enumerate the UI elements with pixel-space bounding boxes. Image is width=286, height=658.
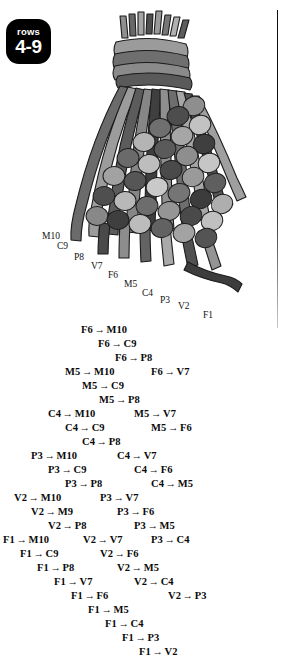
knot-source-cord: C4: [65, 422, 78, 433]
arrow-icon: →: [130, 562, 144, 573]
knot-target-cord: V7: [110, 534, 123, 545]
knot-target-cord: F6: [161, 464, 173, 475]
knot-target-cord: C9: [73, 464, 86, 475]
cord-tails-top: [120, 11, 189, 38]
knot-target-cord: M9: [58, 506, 73, 517]
knot-source-cord: P3: [48, 464, 60, 475]
knot-source-cord: F6: [115, 352, 127, 363]
knot-source-cord: V2: [83, 534, 96, 545]
arrow-icon: →: [134, 632, 148, 643]
arrow-icon: →: [93, 324, 107, 335]
knot-source-cord: F1: [20, 548, 32, 559]
knot-instruction: P3→F6: [117, 506, 154, 517]
knot-source-cord: V2: [168, 590, 181, 601]
arrow-icon: →: [151, 646, 165, 657]
knot-source-cord: F1: [88, 604, 100, 615]
knot-instruction: P3→V7: [100, 492, 139, 503]
knot-instruction: F1→V2: [139, 646, 178, 657]
arrow-icon: →: [32, 548, 46, 559]
knot-instruction: M5→P8: [99, 394, 140, 405]
arrow-icon: →: [44, 506, 58, 517]
knot-target-cord: V7: [125, 492, 138, 503]
knot-source-cord: F1: [54, 576, 66, 587]
knot-instruction: C4→F6: [134, 464, 173, 475]
arrow-icon: →: [149, 408, 163, 419]
knot-instruction: P3→P8: [65, 478, 102, 489]
arrow-icon: →: [61, 408, 75, 419]
knot-target-cord: F6: [142, 506, 154, 517]
knot-target-cord: C9: [45, 548, 58, 559]
knot-source-cord: V2: [14, 492, 27, 503]
knot-source-cord: C4: [151, 478, 164, 489]
knot-source-cord: P3: [151, 534, 163, 545]
arrow-icon: →: [60, 464, 74, 475]
arrow-icon: →: [127, 352, 141, 363]
knot-source-cord: F1: [71, 590, 83, 601]
knot-target-cord: M10: [28, 534, 49, 545]
arrow-icon: →: [83, 590, 97, 601]
knot-source-cord: F1: [105, 618, 117, 629]
knot-instruction: V2→M9: [31, 506, 73, 517]
knot-source-cord: F6: [151, 366, 163, 377]
knot-instruction: F1→M10: [3, 534, 49, 545]
knot-source-cord: F1: [3, 534, 15, 545]
knot-instruction: F1→C4: [105, 618, 144, 629]
knot-instruction: C4→V7: [117, 450, 157, 461]
knot-target-cord: V7: [176, 366, 189, 377]
knot-instruction: P3→M5: [134, 520, 175, 531]
knot-target-cord: V7: [79, 576, 92, 587]
knot-instruction: P3→C9: [48, 464, 87, 475]
knotting-pattern-page: rows 4-9: [0, 0, 286, 658]
arrow-icon: →: [100, 604, 114, 615]
arrow-icon: →: [96, 534, 110, 545]
arrow-icon: →: [166, 422, 180, 433]
knot-source-cord: V2: [48, 520, 61, 531]
knot-source-cord: P3: [117, 506, 129, 517]
arrow-icon: →: [147, 464, 161, 475]
arrow-icon: →: [117, 618, 131, 629]
knot-target-cord: P8: [75, 520, 87, 531]
cord-label-m10: M10: [42, 231, 60, 241]
knot-target-cord: P8: [140, 352, 152, 363]
knot-source-cord: P3: [31, 450, 43, 461]
knot-source-cord: P3: [65, 478, 77, 489]
cord-label-p8: P8: [74, 252, 84, 262]
cord-label-f1: F1: [203, 310, 213, 320]
knot-target-cord: F6: [96, 590, 108, 601]
knot-source-cord: C4: [117, 450, 130, 461]
knot-target-cord: C9: [92, 422, 105, 433]
knot-source-cord: C4: [82, 436, 95, 447]
knot-instruction: V2→P8: [48, 520, 87, 531]
knot-instruction: M5→V7: [134, 408, 176, 419]
arrow-icon: →: [49, 562, 63, 573]
arrow-icon: →: [61, 520, 75, 531]
knot-target-cord: C4: [130, 618, 143, 629]
knot-target-cord: P8: [109, 436, 121, 447]
knot-instruction: C4→C9: [65, 422, 105, 433]
knot-source-cord: F1: [122, 632, 134, 643]
arrow-icon: →: [78, 422, 92, 433]
knot-source-cord: M5: [65, 366, 80, 377]
arrow-icon: →: [146, 520, 160, 531]
cord-label-f6: F6: [108, 270, 118, 280]
knot-target-cord: C4: [161, 576, 174, 587]
knot-instruction: F1→F6: [71, 590, 108, 601]
knot-instruction: F1→V7: [54, 576, 93, 587]
knot-source-cord: C4: [134, 464, 147, 475]
knot-instruction: F1→C9: [20, 548, 59, 559]
knot-source-cord: M5: [134, 408, 149, 419]
knot-instruction: F6→C9: [98, 338, 137, 349]
knot-instruction: V2→C4: [134, 576, 174, 587]
arrow-icon: →: [43, 450, 57, 461]
knot-instruction: V2→P3: [168, 590, 207, 601]
arrow-icon: →: [27, 492, 41, 503]
knot-source-cord: C4: [48, 408, 61, 419]
knot-target-cord: F6: [127, 548, 139, 559]
knot-target-cord: M10: [75, 408, 96, 419]
knot-target-cord: M10: [56, 450, 77, 461]
knot-target-cord: P8: [128, 394, 140, 405]
arrow-icon: →: [164, 478, 178, 489]
knot-target-cord: M5: [144, 562, 159, 573]
cord-label-v7: V7: [91, 261, 103, 271]
knot-instruction: F6→P8: [115, 352, 152, 363]
